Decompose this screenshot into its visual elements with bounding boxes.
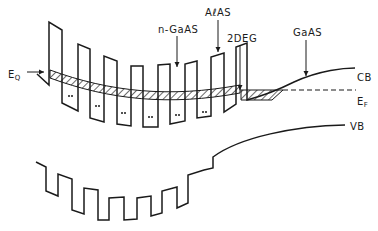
gaas-label: GaAS	[293, 27, 322, 38]
valence-band	[36, 125, 345, 220]
eq-label: EQ	[8, 69, 21, 82]
vb-label: VB	[350, 121, 365, 132]
ef-label: EF	[357, 96, 368, 109]
alas-label: AℓAS	[205, 7, 231, 18]
cb-label: CB	[357, 72, 372, 83]
band-diagram: EQ n-GaAS AℓAS 2DEG GaAS CB EF VB	[0, 0, 378, 231]
ngaas-label: n-GaAS	[158, 24, 198, 35]
twodeg-label: 2DEG	[227, 33, 257, 44]
